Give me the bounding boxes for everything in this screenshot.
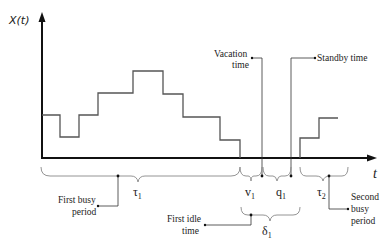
first-idle-time-annotation: First idle time: [167, 214, 252, 236]
x-axis: t: [41, 155, 378, 182]
v1-symbol: v1: [245, 185, 255, 201]
y-axis-arrow-icon: [39, 12, 46, 22]
q1-symbol: q1: [276, 185, 286, 201]
second-busy-period-annotation: Second busy period: [328, 175, 380, 226]
v1-brace: [240, 167, 262, 181]
first-busy-period-label-line1: First busy: [58, 195, 96, 205]
tau2-symbol: τ2: [317, 185, 326, 201]
delta1-symbol: δ1: [262, 224, 272, 240]
first-busy-period-label-line2: period: [72, 207, 97, 217]
first-busy-period-annotation: First busy period: [58, 175, 119, 217]
x-axis-arrow-icon: [367, 155, 377, 162]
vacation-time-label-line2: time: [232, 60, 249, 70]
q1-brace: [263, 167, 291, 181]
y-axis: X(t): [8, 12, 46, 158]
second-busy-period-label-line2: busy: [351, 204, 369, 214]
first-idle-time-label-line1: First idle: [167, 214, 201, 224]
second-busy-period-label-line3: period: [351, 216, 376, 226]
second-busy-step-curve: [300, 118, 338, 158]
tau2-brace: [300, 167, 348, 181]
first-busy-step-curve: [42, 71, 240, 158]
second-busy-period-label-line1: Second: [351, 192, 379, 202]
y-axis-label: X(t): [8, 14, 29, 27]
queue-length-diagram: X(t) t Vacation time Standby time τ: [0, 0, 392, 249]
tau1-brace: [41, 167, 240, 182]
tau1-symbol: τ1: [133, 185, 142, 201]
standby-time-label: Standby time: [317, 53, 367, 63]
first-idle-time-label-line2: time: [182, 226, 199, 236]
delta1-brace: [241, 207, 300, 221]
x-axis-label: t: [373, 166, 378, 181]
vacation-time-label-line1: Vacation: [214, 49, 247, 59]
